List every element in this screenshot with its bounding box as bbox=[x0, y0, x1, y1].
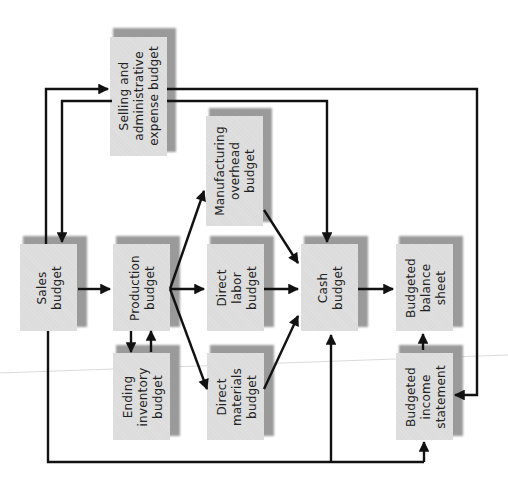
connector-arrows bbox=[0, 0, 508, 501]
arrow-production-to-overhead bbox=[170, 191, 204, 289]
arrow-production-to-direct-materials bbox=[170, 289, 207, 389]
arrow-selling-admin-to-income-statement bbox=[167, 89, 477, 395]
budget-flow-diagram: Selling and administrative expense budge… bbox=[0, 0, 508, 501]
arrow-selling-admin-to-cash bbox=[167, 101, 327, 242]
arrow-sales-to-selling-admin bbox=[46, 89, 108, 244]
arrow-overhead-to-cash bbox=[264, 210, 298, 263]
arrow-sales-to-bus bbox=[48, 331, 424, 462]
arrow-direct-materials-to-cash bbox=[264, 316, 298, 389]
arrow-selling-admin-to-sales bbox=[62, 101, 112, 242]
